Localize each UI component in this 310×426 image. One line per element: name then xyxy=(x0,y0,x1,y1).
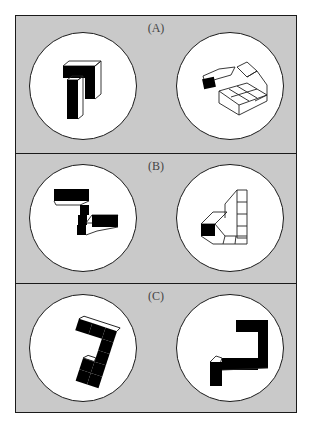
cube-figure-icon xyxy=(62,320,118,392)
panel-a: (A) xyxy=(16,16,296,153)
figure-frame: (A) (B) xyxy=(15,15,297,413)
panel-b: (B) xyxy=(16,153,296,284)
cube-figure-icon xyxy=(52,187,122,247)
panel-label: (A) xyxy=(16,21,296,36)
cube-figure-icon xyxy=(199,188,261,246)
cube-figure-icon xyxy=(201,61,271,116)
cube-figure-icon xyxy=(206,318,274,390)
cube-figure-icon xyxy=(61,56,111,121)
panel-c: (C) xyxy=(16,283,296,413)
